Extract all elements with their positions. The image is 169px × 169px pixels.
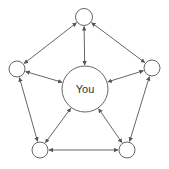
edge-right-bottom-right [130,77,150,142]
node-left [9,61,25,77]
edge-left-center [26,72,62,83]
edge-right-center [108,71,144,82]
edge-left-bottom-left [19,78,37,142]
node-top [76,9,93,26]
node-label-center: You [76,83,95,95]
edge-bottom-right-center [99,109,122,143]
network-diagram: You [0,0,169,169]
edge-bottom-left-center [45,108,70,142]
node-bottom-right [119,142,135,158]
edge-top-left [24,23,76,64]
edge-top-center [84,26,85,65]
node-right [144,60,160,76]
node-bottom-left [32,142,48,158]
edge-top-right [92,23,145,63]
